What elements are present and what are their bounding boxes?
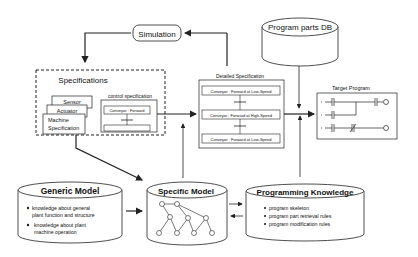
actuator-card-label: Actuator (57, 108, 78, 114)
generic-bullet-2b: machine operation (34, 229, 77, 235)
detailed-step-3: Conveyor : Forward at Low-Speed (211, 137, 272, 142)
control-spec-step: Conveyor : Forward (109, 108, 144, 113)
sensor-card-label: Sensor (63, 99, 81, 105)
generic-model-title: Generic Model (41, 186, 100, 196)
machine-spec-card-label: Specification (48, 125, 79, 131)
arrow-machine-to-specific (76, 135, 142, 180)
detailed-spec-title: Detailed Specification (216, 73, 264, 79)
knowledge-bullet-1: program skeleton (269, 205, 309, 211)
machine-card-label: Machine (48, 117, 69, 123)
detailed-spec-box: Detailed Specification Conveyor : Forwar… (199, 73, 284, 148)
program-parts-db: Program parts DB (262, 18, 338, 66)
simulation-label: Simulation (138, 30, 175, 39)
specifications-box: Specifications Sensor Actuator Machine S… (36, 70, 165, 135)
programming-knowledge-cylinder: Programming Knowledge program skeleton p… (246, 184, 364, 241)
knowledge-bullet-3: program modification rules (269, 221, 331, 227)
detailed-step-2: Conveyor : Forward at High-Speed (210, 113, 272, 118)
target-program-box: Target Program (317, 85, 397, 139)
simulation-node: Simulation (133, 25, 181, 41)
knowledge-bullet-2: program part retrieval rules (269, 213, 332, 219)
specific-model-cylinder: Specific Model (147, 182, 227, 245)
specifications-title: Specifications (58, 76, 107, 85)
control-spec-title: control specification (108, 93, 152, 99)
arrow-sim-to-spec (85, 33, 131, 62)
program-parts-db-label: Program parts DB (268, 23, 332, 32)
specific-model-title: Specific Model (158, 187, 214, 196)
diagram-canvas: Simulation Program parts DB Specificatio… (0, 0, 418, 257)
generic-bullet-1a: knowledge about general (32, 205, 90, 211)
target-program-title: Target Program (332, 85, 370, 91)
generic-bullet-2a: knowledge about plant (34, 222, 86, 228)
programming-knowledge-title: Programming Knowledge (257, 188, 354, 197)
generic-bullet-1b: plant function and structure (32, 212, 95, 218)
generic-model-cylinder: Generic Model knowledge about general pl… (18, 182, 122, 243)
detailed-step-1: Conveyor : Forward at Low-Speed (211, 89, 272, 94)
